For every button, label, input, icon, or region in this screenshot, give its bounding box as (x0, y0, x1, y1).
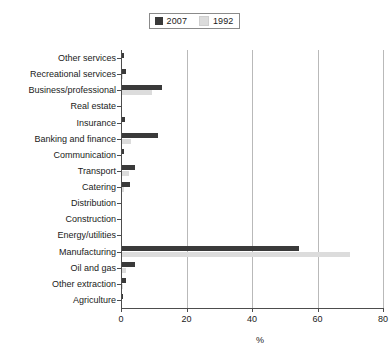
bar-group (121, 163, 383, 179)
chart-legend: 2007 1992 (0, 13, 389, 29)
y-tick (117, 284, 121, 285)
x-tick-20 (187, 308, 188, 312)
bar-2007[interactable] (121, 85, 162, 90)
legend-swatch-1992 (199, 16, 209, 26)
x-tick-60 (318, 308, 319, 312)
y-axis-label: Communication (0, 150, 116, 160)
legend-entry-2007[interactable]: 2007 (155, 17, 187, 26)
y-tick (117, 90, 121, 91)
y-axis-labels: Other servicesRecreational servicesBusin… (0, 50, 116, 308)
bar-group (121, 244, 383, 260)
x-tick-label-80: 80 (378, 314, 388, 325)
y-axis-line (121, 50, 122, 308)
bar-group (121, 211, 383, 227)
legend-box: 2007 1992 (149, 13, 241, 29)
x-axis-title-text: % (256, 335, 264, 345)
bar-2007[interactable] (121, 246, 299, 251)
y-tick (117, 74, 121, 75)
y-tick (117, 139, 121, 140)
legend-entry-1992[interactable]: 1992 (199, 16, 233, 26)
x-tick-label-20: 20 (181, 314, 191, 325)
y-tick (117, 155, 121, 156)
y-axis-label: Catering (0, 182, 116, 192)
gridline-80 (383, 50, 384, 308)
bar-group (121, 276, 383, 292)
x-tick-0 (121, 308, 122, 312)
y-axis-label: Construction (0, 214, 116, 224)
y-axis-label: Insurance (0, 118, 116, 128)
y-axis-label: Other extraction (0, 279, 116, 289)
bar-group (121, 260, 383, 276)
bar-group (121, 179, 383, 195)
bar-group (121, 98, 383, 114)
legend-swatch-2007 (155, 17, 163, 25)
bar-1992[interactable] (121, 252, 350, 257)
y-axis-label: Energy/utilities (0, 230, 116, 240)
x-tick-label-0: 0 (118, 314, 123, 325)
y-tick (117, 300, 121, 301)
x-tick-40 (252, 308, 253, 312)
y-axis-label: Agriculture (0, 295, 116, 305)
y-tick (117, 123, 121, 124)
plot-area (121, 50, 383, 308)
bar-group (121, 50, 383, 66)
y-tick (117, 106, 121, 107)
y-axis-label: Distribution (0, 198, 116, 208)
x-axis-title: % (0, 335, 389, 345)
legend-label-2007: 2007 (167, 17, 187, 26)
bar-2007[interactable] (121, 182, 130, 187)
x-tick-80 (383, 308, 384, 312)
bar-2007[interactable] (121, 262, 135, 267)
bar-group (121, 66, 383, 82)
bar-group (121, 131, 383, 147)
bar-group (121, 195, 383, 211)
y-axis-label: Other services (0, 53, 116, 63)
y-tick (117, 187, 121, 188)
x-tick-label-60: 60 (312, 314, 322, 325)
y-tick (117, 252, 121, 253)
y-axis-label: Real estate (0, 101, 116, 111)
bar-group (121, 115, 383, 131)
bar-group (121, 227, 383, 243)
y-axis-label: Oil and gas (0, 263, 116, 273)
bar-2007[interactable] (121, 133, 158, 138)
y-axis-label: Transport (0, 166, 116, 176)
y-axis-label: Recreational services (0, 69, 116, 79)
y-axis-label: Business/professional (0, 85, 116, 95)
bar-2007[interactable] (121, 165, 135, 170)
y-axis-label: Banking and finance (0, 134, 116, 144)
bar-group (121, 147, 383, 163)
x-tick-label-40: 40 (247, 314, 257, 325)
bar-1992[interactable] (121, 171, 129, 176)
bar-group (121, 292, 383, 308)
y-tick (117, 203, 121, 204)
bar-group (121, 82, 383, 98)
bar-1992[interactable] (121, 139, 131, 144)
y-tick (117, 171, 121, 172)
y-axis-label: Manufacturing (0, 247, 116, 257)
y-tick (117, 219, 121, 220)
legend-label-1992: 1992 (213, 17, 233, 26)
y-tick (117, 58, 121, 59)
y-tick (117, 268, 121, 269)
bar-1992[interactable] (121, 90, 152, 95)
y-tick (117, 235, 121, 236)
